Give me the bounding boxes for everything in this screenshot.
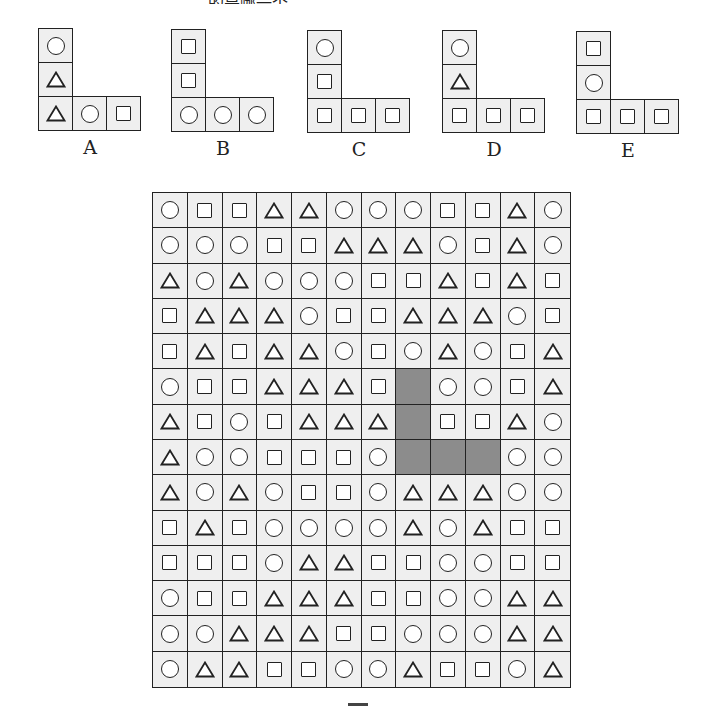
circle-icon — [439, 589, 457, 607]
grid-cell — [153, 652, 188, 687]
grid-cell — [396, 193, 431, 228]
triangle-icon — [334, 413, 354, 430]
triangle-icon — [438, 484, 458, 501]
square-icon — [475, 662, 490, 677]
square-icon — [654, 109, 669, 124]
grid-cell — [257, 405, 292, 440]
grid-cell — [501, 334, 536, 369]
grid-cell — [501, 228, 536, 263]
option-label: E — [598, 139, 658, 161]
grid-cell — [466, 299, 501, 334]
circle-icon — [439, 519, 457, 537]
triangle-icon — [264, 202, 284, 219]
square-icon — [371, 273, 386, 288]
square-icon — [232, 344, 247, 359]
option-cell — [576, 31, 611, 66]
grid-cell — [223, 475, 258, 510]
grid-cell — [327, 228, 362, 263]
option-cell — [644, 99, 679, 134]
grid-cell — [153, 228, 188, 263]
triangle-icon — [299, 625, 319, 642]
grid-cell — [466, 511, 501, 546]
grid-cell — [431, 511, 466, 546]
grid-cell — [153, 264, 188, 299]
circle-icon — [544, 448, 562, 466]
circle-icon — [474, 554, 492, 572]
circle-icon — [335, 272, 353, 290]
circle-icon — [508, 660, 526, 678]
square-icon — [116, 106, 131, 121]
grid-cell — [501, 264, 536, 299]
circle-icon — [474, 625, 492, 643]
circle-icon — [196, 483, 214, 501]
circle-icon — [404, 201, 422, 219]
square-icon — [510, 379, 525, 394]
circle-icon — [161, 589, 179, 607]
grid-cell — [535, 228, 570, 263]
grid-cell — [431, 581, 466, 616]
grid-cell — [292, 299, 327, 334]
square-icon — [197, 203, 212, 218]
triangle-icon — [403, 519, 423, 536]
grid-cell — [188, 546, 223, 581]
triangle-icon — [229, 272, 249, 289]
grid-cell — [431, 405, 466, 440]
grid-cell — [257, 511, 292, 546]
grid-cell — [501, 405, 536, 440]
square-icon — [336, 485, 351, 500]
grid-cell — [501, 652, 536, 687]
circle-icon — [196, 448, 214, 466]
shaded-cell — [396, 369, 431, 404]
grid-cell — [223, 652, 258, 687]
grid-cell — [188, 405, 223, 440]
grid-cell — [466, 193, 501, 228]
grid-cell — [223, 369, 258, 404]
circle-icon — [508, 448, 526, 466]
grid-cell — [327, 616, 362, 651]
circle-icon — [161, 236, 179, 254]
grid-cell — [535, 369, 570, 404]
circle-icon — [230, 236, 248, 254]
grid-cell — [431, 652, 466, 687]
grid-cell — [292, 581, 327, 616]
grid-cell — [223, 581, 258, 616]
grid-cell — [535, 299, 570, 334]
square-icon — [406, 591, 421, 606]
grid-cell — [223, 616, 258, 651]
square-icon — [232, 555, 247, 570]
grid-cell — [396, 652, 431, 687]
option-label: B — [193, 137, 253, 159]
square-icon — [336, 450, 351, 465]
triangle-icon — [507, 202, 527, 219]
square-icon — [440, 203, 455, 218]
shape-grid — [152, 192, 571, 688]
circle-icon — [161, 625, 179, 643]
circle-icon — [300, 272, 318, 290]
grid-cell — [501, 299, 536, 334]
square-icon — [181, 73, 196, 88]
grid-cell — [466, 228, 501, 263]
grid-cell — [327, 193, 362, 228]
grid-cell — [362, 405, 397, 440]
square-icon — [620, 109, 635, 124]
grid-cell — [535, 440, 570, 475]
triangle-icon — [195, 519, 215, 536]
triangle-icon — [299, 378, 319, 395]
circle-icon — [316, 39, 334, 57]
circle-icon — [47, 37, 65, 55]
grid-cell — [431, 475, 466, 510]
grid-cell — [223, 511, 258, 546]
grid-cell — [466, 581, 501, 616]
square-icon — [197, 414, 212, 429]
grid-cell — [292, 228, 327, 263]
triangle-icon — [299, 343, 319, 360]
grid-cell — [153, 369, 188, 404]
option-cell — [341, 98, 376, 133]
grid-cell — [362, 334, 397, 369]
circle-icon — [439, 378, 457, 396]
grid-cell — [188, 299, 223, 334]
triangle-icon — [334, 554, 354, 571]
grid-cell — [292, 440, 327, 475]
circle-icon — [81, 105, 99, 123]
grid-cell — [396, 264, 431, 299]
